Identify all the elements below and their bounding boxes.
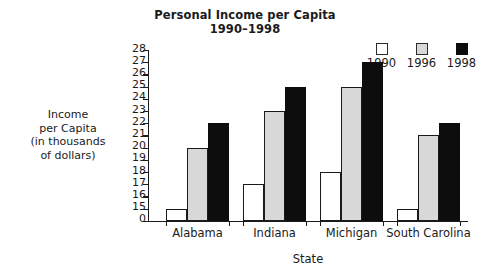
bar-indiana-1998[interactable] — [285, 87, 306, 221]
plot-area: 28272625242322212019181716150 AlabamaInd… — [148, 50, 468, 222]
bar-michigan-1998[interactable] — [362, 62, 383, 220]
bar-group-alabama — [166, 50, 229, 221]
bar-south-carolina-1996[interactable] — [418, 135, 439, 220]
bar-group-south-carolina — [397, 50, 460, 221]
y-tick-label: 0 — [139, 213, 146, 225]
bar-group-michigan — [320, 50, 383, 221]
bar-group-indiana — [243, 50, 306, 221]
bar-south-carolina-1990[interactable] — [397, 209, 418, 221]
y-axis-label-line-2: per Capita — [18, 122, 118, 136]
y-tick-label: 18 — [132, 165, 146, 177]
chart-title: Personal Income per Capita 1990–1998 — [0, 8, 490, 36]
y-tick-label: 26 — [132, 67, 146, 79]
y-tick-label: 22 — [132, 116, 146, 128]
bar-michigan-1990[interactable] — [320, 172, 341, 221]
chart-title-subtitle: 1990–1998 — [0, 22, 490, 36]
y-tick-label: 20 — [132, 140, 146, 152]
y-tick-label: 28 — [132, 43, 146, 55]
y-tick-label: 17 — [132, 177, 146, 189]
x-axis-line — [148, 221, 468, 222]
y-axis-label-line-1: Income — [18, 108, 118, 122]
chart-title-main: Personal Income per Capita — [154, 8, 335, 22]
bar-alabama-1990[interactable] — [166, 209, 187, 221]
bar-alabama-1996[interactable] — [187, 148, 208, 221]
x-axis-label: State — [148, 252, 468, 266]
y-tick-label: 23 — [132, 104, 146, 116]
y-tick-label: 16 — [132, 189, 146, 201]
y-axis-line — [148, 50, 149, 222]
bar-michigan-1996[interactable] — [341, 87, 362, 221]
x-category-label-south-carolina: South Carolina — [379, 226, 479, 240]
y-tick-label: 21 — [132, 128, 146, 140]
bar-indiana-1996[interactable] — [264, 111, 285, 221]
y-tick-label: 24 — [132, 91, 146, 103]
y-axis-label-line-4: of dollars) — [18, 149, 118, 163]
bar-indiana-1990[interactable] — [243, 184, 264, 220]
y-tick-label: 19 — [132, 152, 146, 164]
y-tick-label: 27 — [132, 55, 146, 67]
y-axis-label-line-3: (in thousands — [18, 135, 118, 149]
y-tick-label: 25 — [132, 79, 146, 91]
bar-south-carolina-1998[interactable] — [439, 123, 460, 220]
bar-alabama-1998[interactable] — [208, 123, 229, 220]
y-axis-label: Income per Capita (in thousands of dolla… — [18, 108, 118, 162]
